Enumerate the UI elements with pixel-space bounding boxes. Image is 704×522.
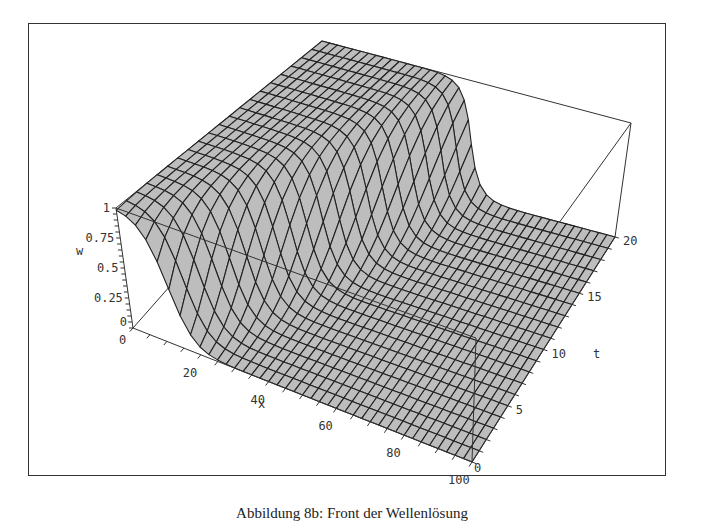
t-tick: [565, 316, 569, 317]
t-tick: [594, 271, 598, 272]
t-tick-label: 20: [623, 234, 637, 248]
x-tick: [418, 442, 421, 446]
x-tick: [249, 375, 252, 379]
box-edge: [615, 123, 631, 237]
x-tick-label: 80: [386, 446, 400, 460]
t-tick: [501, 417, 505, 418]
w-tick-label: 0: [120, 315, 127, 329]
w-tick-label: 0.25: [94, 291, 123, 305]
t-tick-label: 15: [587, 290, 601, 304]
w-tick-label: 0.5: [97, 261, 119, 275]
t-tick: [536, 361, 540, 362]
wave-front-surface: [116, 41, 615, 462]
x-tick-label: 100: [448, 473, 470, 487]
x-tick: [130, 328, 133, 332]
t-tick: [558, 327, 562, 328]
x-tick: [452, 455, 455, 459]
x-tick: [147, 335, 150, 339]
t-tick: [586, 282, 590, 283]
x-tick: [181, 348, 184, 352]
t-tick: [608, 248, 612, 249]
x-tick: [300, 395, 303, 399]
t-tick: [515, 395, 519, 396]
t-tick: [486, 440, 490, 442]
x-tick: [266, 382, 269, 386]
x-tick-label: 60: [318, 419, 332, 433]
t-tick: [508, 406, 512, 407]
x-tick: [469, 462, 472, 467]
x-tick: [215, 362, 218, 366]
x-tick: [232, 368, 235, 372]
t-tick: [493, 428, 497, 430]
t-tick-label: 0: [474, 461, 481, 475]
t-tick: [479, 451, 483, 453]
t-tick: [601, 260, 605, 261]
x-tick: [333, 408, 336, 412]
t-tick: [615, 237, 619, 238]
x-tick: [435, 449, 438, 453]
x-tick: [384, 429, 387, 433]
x-tick: [283, 388, 286, 392]
x-axis-label: x: [258, 397, 265, 411]
t-tick-label: 10: [552, 347, 566, 361]
t-tick-label: 5: [516, 403, 523, 417]
x-tick: [401, 435, 404, 439]
x-tick: [350, 415, 353, 419]
figure-caption: Abbildung 8b: Front der Wellenlösung: [0, 505, 704, 522]
x-tick: [367, 422, 370, 426]
t-tick: [551, 338, 555, 339]
x-tick: [198, 355, 201, 359]
x-tick-label: 20: [183, 366, 197, 380]
x-tick: [316, 402, 319, 406]
t-tick: [572, 305, 576, 306]
t-axis-label: t: [593, 347, 600, 361]
t-tick: [544, 350, 548, 351]
w-axis-label: w: [76, 244, 84, 258]
x-tick-label: 0: [119, 333, 126, 347]
w-tick-label: 1: [103, 201, 110, 215]
x-tick: [164, 341, 167, 345]
t-tick: [522, 383, 526, 384]
w-tick-label: 0.75: [85, 231, 114, 245]
t-tick: [529, 372, 533, 373]
t-tick: [579, 293, 583, 294]
